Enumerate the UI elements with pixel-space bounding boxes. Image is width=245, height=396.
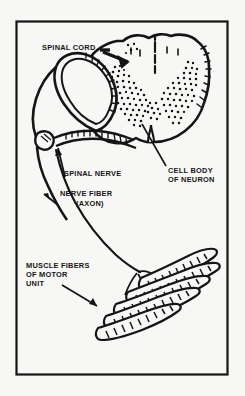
motor-unit-diagram: SPINAL CORD SPINAL NERVE CELL BODY OF NE… — [0, 0, 245, 396]
label-spinal-nerve: SPINAL NERVE — [64, 169, 121, 178]
label-cell-body-line2: OF NEURON — [168, 175, 215, 184]
label-muscle-fibers-line1: MUSCLE FIBERS — [26, 261, 90, 270]
label-nerve-fiber-line2: (AXON) — [76, 199, 104, 208]
label-spinal-cord: SPINAL CORD — [42, 43, 96, 52]
label-muscle-fibers-line2: OF MOTOR — [26, 270, 68, 279]
label-cell-body-line1: CELL BODY — [168, 166, 213, 175]
figure-container: SPINAL CORD SPINAL NERVE CELL BODY OF NE… — [0, 0, 245, 396]
label-nerve-fiber-line1: NERVE FIBER — [60, 189, 113, 198]
label-muscle-fibers-line3: UNIT — [26, 279, 44, 288]
